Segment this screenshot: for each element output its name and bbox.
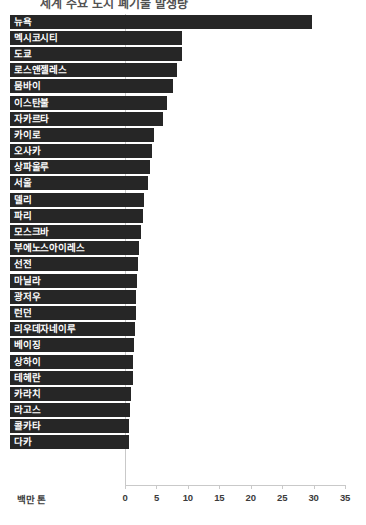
bar-category-label: 파리 <box>14 209 32 223</box>
x-tick <box>156 485 157 489</box>
bar-row: 상하이 <box>0 354 366 370</box>
bar-row: 뉴욕 <box>0 14 366 30</box>
bar-row: 도쿄 <box>0 46 366 62</box>
x-tick-label: 35 <box>340 492 350 503</box>
bar-category-label: 다카 <box>14 435 32 449</box>
bar-row: 델리 <box>0 192 366 208</box>
x-tick <box>314 485 315 489</box>
plot-area: 뉴욕멕시코시티도쿄로스앤젤레스뭄바이이스탄불자카르타카이로오사카상파울루서울델리… <box>0 14 366 486</box>
bar-category-label: 서울 <box>14 176 32 190</box>
bar-category-label: 상파울루 <box>14 160 49 174</box>
bar-row: 자카르타 <box>0 111 366 127</box>
bar-row: 모스크바 <box>0 224 366 240</box>
x-axis-unit-label: 백만 톤 <box>17 492 46 506</box>
bar-row: 베이징 <box>0 338 366 354</box>
x-tick-label: 25 <box>277 492 287 503</box>
x-tick-label: 10 <box>183 492 193 503</box>
bar-category-label: 도쿄 <box>14 47 32 61</box>
bar-category-label: 베이징 <box>14 338 40 352</box>
x-tick <box>282 485 283 489</box>
bar-row: 카이로 <box>0 127 366 143</box>
bar-rows: 뉴욕멕시코시티도쿄로스앤젤레스뭄바이이스탄불자카르타카이로오사카상파울루서울델리… <box>0 14 366 451</box>
bar-row: 파리 <box>0 208 366 224</box>
bar-row: 테헤란 <box>0 370 366 386</box>
bar-row: 마닐라 <box>0 273 366 289</box>
waste-chart: 세계 주요 도시 폐기물 발생량 뉴욕멕시코시티도쿄로스앤젤레스뭄바이이스탄불자… <box>0 0 366 525</box>
bar-category-label: 라고스 <box>14 403 40 417</box>
bar-row: 콜카타 <box>0 419 366 435</box>
bar-row: 서울 <box>0 176 366 192</box>
bar-category-label: 콜카타 <box>14 419 40 433</box>
bar-row: 리우데자네이루 <box>0 322 366 338</box>
bar-category-label: 마닐라 <box>14 274 40 288</box>
x-tick-label: 20 <box>246 492 256 503</box>
bar-row: 다카 <box>0 435 366 451</box>
bar-row: 멕시코시티 <box>0 30 366 46</box>
bar-row: 런던 <box>0 305 366 321</box>
x-tick <box>188 485 189 489</box>
bar-row: 광저우 <box>0 289 366 305</box>
bar-row: 로스앤젤레스 <box>0 63 366 79</box>
bar-category-label: 뭄바이 <box>14 79 40 93</box>
bar-row: 선전 <box>0 257 366 273</box>
bar <box>10 15 312 29</box>
bar-category-label: 멕시코시티 <box>14 31 58 45</box>
bar-category-label: 모스크바 <box>14 225 49 239</box>
bar-category-label: 카이로 <box>14 128 40 142</box>
bar-category-label: 카라치 <box>14 387 40 401</box>
bar-row: 상파울루 <box>0 160 366 176</box>
bar-row: 카라치 <box>0 386 366 402</box>
bar-row: 라고스 <box>0 403 366 419</box>
bar-category-label: 부에노스아이레스 <box>14 241 84 255</box>
x-tick-label: 15 <box>214 492 224 503</box>
x-tick <box>219 485 220 489</box>
x-tick <box>125 485 126 489</box>
bar-category-label: 상하이 <box>14 355 40 369</box>
bar-category-label: 이스탄불 <box>14 96 49 110</box>
bar-row: 뭄바이 <box>0 79 366 95</box>
page-title: 세계 주요 도시 폐기물 발생량 <box>40 0 189 11</box>
bar-category-label: 뉴욕 <box>14 15 32 29</box>
bar-category-label: 선전 <box>14 257 32 271</box>
bar-row: 이스탄불 <box>0 95 366 111</box>
bar <box>10 47 182 61</box>
x-tick <box>345 485 346 489</box>
bar-category-label: 런던 <box>14 306 32 320</box>
bar-category-label: 오사카 <box>14 144 40 158</box>
bar-row: 부에노스아이레스 <box>0 241 366 257</box>
bar-category-label: 리우데자네이루 <box>14 322 76 336</box>
bar-category-label: 테헤란 <box>14 371 40 385</box>
x-tick <box>251 485 252 489</box>
bar-category-label: 자카르타 <box>14 112 49 126</box>
bar-row: 오사카 <box>0 144 366 160</box>
x-tick-label: 0 <box>122 492 127 503</box>
bar-category-label: 로스앤젤레스 <box>14 63 67 77</box>
bar-category-label: 델리 <box>14 193 32 207</box>
x-axis-tick-labels: 05101520253035 <box>0 492 366 508</box>
x-tick-label: 30 <box>308 492 318 503</box>
bar-category-label: 광저우 <box>14 290 40 304</box>
x-tick-label: 5 <box>154 492 159 503</box>
